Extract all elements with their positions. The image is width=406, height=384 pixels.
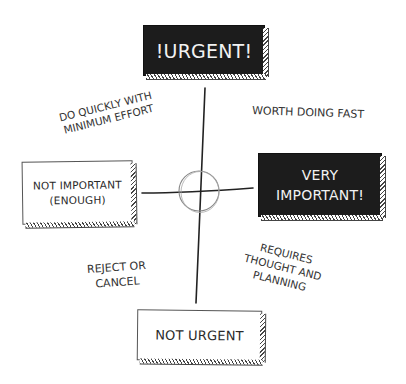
box-depth-right <box>260 314 267 363</box>
not-important-line1: NOT IMPORTANT <box>33 177 122 193</box>
not-urgent-label: NOT URGENT <box>155 328 244 344</box>
vertical-axis <box>196 88 205 303</box>
very-important-line2: IMPORTANT! <box>276 185 364 205</box>
box-depth-bottom <box>146 74 266 80</box>
urgent-label: !URGENT! <box>156 40 253 62</box>
very-important-line1: VERY <box>302 165 339 185</box>
box-depth-bottom <box>261 215 383 221</box>
box-depth-bottom <box>140 358 263 365</box>
quadrant-bottom-left-label: REJECT OR CANCEL <box>81 258 153 293</box>
not-important-box: NOT IMPORTANT (ENOUGH) <box>22 160 134 225</box>
box-depth-right <box>131 163 138 224</box>
not-important-line2: (ENOUGH) <box>49 192 105 208</box>
not-urgent-box: NOT URGENT <box>137 309 263 361</box>
box-depth-right <box>263 28 269 77</box>
box-depth-right <box>380 156 386 218</box>
priority-matrix-diagram: !URGENT! VERY IMPORTANT! NOT IMPORTANT (… <box>0 0 406 384</box>
very-important-box: VERY IMPORTANT! <box>258 153 382 217</box>
urgent-box: !URGENT! <box>143 25 265 76</box>
horizontal-axis <box>142 188 253 193</box>
